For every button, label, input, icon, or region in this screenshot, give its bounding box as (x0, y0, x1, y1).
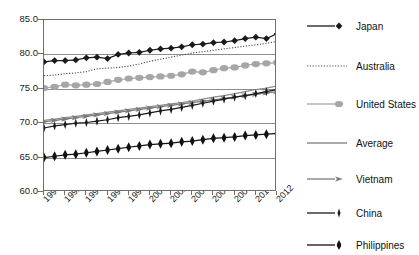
legend-item-china[interactable]: China (305, 206, 382, 220)
legend-key-icon (305, 238, 351, 252)
series-japan (44, 30, 276, 65)
data-point-marker (252, 61, 260, 67)
data-point-marker (199, 69, 207, 75)
legend-item-australia[interactable]: Australia (305, 59, 395, 73)
data-point-marker (127, 142, 131, 152)
data-point-marker (53, 121, 56, 130)
data-point-marker (83, 54, 90, 61)
y-axis-tick-label: 65.0 (0, 152, 38, 161)
data-point-marker (273, 60, 276, 66)
data-point-marker (336, 23, 343, 30)
data-point-marker (125, 50, 132, 57)
data-point-marker (252, 34, 259, 41)
data-point-marker (158, 139, 162, 149)
data-point-marker (335, 176, 343, 181)
data-point-marker (50, 84, 58, 90)
data-point-marker (199, 41, 206, 48)
legend-key-icon (305, 19, 351, 33)
data-point-marker (135, 75, 143, 81)
series-line (44, 86, 276, 120)
series-united-states (44, 60, 276, 92)
data-point-marker (254, 130, 258, 140)
data-point-marker (52, 151, 56, 161)
data-point-marker (147, 47, 154, 54)
data-point-marker (169, 138, 173, 148)
legend-item-vietnam[interactable]: Vietnam (305, 172, 393, 186)
data-point-marker (180, 137, 184, 147)
data-point-marker (82, 82, 90, 88)
data-point-marker (221, 39, 228, 46)
chart-legend: JapanAustraliaUnited StatesAverageVietna… (305, 10, 419, 250)
legend-key-icon (305, 97, 351, 111)
data-point-marker (106, 115, 109, 124)
data-point-marker (115, 51, 122, 58)
data-point-marker (230, 64, 238, 70)
data-point-marker (44, 153, 46, 163)
legend-item-label: Japan (351, 21, 383, 32)
data-point-marker (72, 57, 79, 64)
data-point-marker (61, 82, 69, 88)
data-point-marker (125, 75, 133, 81)
legend-item-philippines[interactable]: Philippines (305, 238, 404, 252)
data-point-marker (190, 136, 194, 146)
data-point-marker (210, 39, 217, 46)
legend-item-label: China (351, 208, 382, 219)
data-point-marker (93, 81, 101, 87)
y-axis-tick-label: 80.0 (0, 48, 38, 57)
legend-item-average[interactable]: Average (305, 136, 393, 150)
data-point-marker (44, 123, 46, 132)
data-point-marker (263, 35, 270, 42)
data-point-marker (72, 82, 80, 88)
data-point-marker (84, 148, 88, 158)
legend-item-united-states[interactable]: United States (305, 97, 416, 111)
series-philippines (44, 129, 276, 163)
data-point-marker (44, 59, 47, 66)
data-point-marker (254, 89, 257, 98)
data-point-marker (168, 45, 175, 52)
data-point-marker (167, 73, 175, 79)
legend-item-label: Philippines (351, 240, 404, 251)
data-point-marker (51, 57, 58, 64)
data-point-marker (104, 55, 111, 62)
y-axis-tick-label: 70.0 (0, 117, 38, 126)
data-point-marker (85, 118, 88, 127)
data-point-marker (74, 149, 78, 159)
data-point-marker (63, 150, 67, 160)
data-point-marker (337, 240, 341, 250)
data-point-marker (189, 41, 196, 48)
data-point-marker (116, 144, 120, 154)
data-point-marker (137, 141, 141, 151)
data-point-marker (74, 119, 77, 128)
data-point-marker (44, 85, 48, 91)
legend-key-icon (305, 136, 351, 150)
data-point-marker (276, 85, 277, 94)
data-point-marker (338, 208, 341, 217)
data-point-marker (220, 65, 228, 71)
x-axis-tick-label: 2012 (274, 183, 295, 204)
legend-item-label: Australia (351, 61, 395, 72)
data-point-marker (138, 110, 141, 119)
data-point-marker (188, 69, 196, 75)
data-point-marker (241, 62, 249, 68)
plot-area (43, 19, 276, 191)
legend-item-label: United States (351, 99, 416, 110)
legend-key-icon (305, 172, 351, 186)
data-point-marker (264, 129, 268, 139)
data-point-marker (146, 74, 154, 80)
data-point-marker (178, 43, 185, 50)
data-point-marker (64, 120, 67, 129)
legend-key-icon (305, 206, 351, 220)
life-expectancy-chart: 85.080.075.070.065.060.0 199019921994199… (0, 0, 419, 255)
legend-item-label: Average (351, 138, 393, 149)
data-point-marker (243, 131, 247, 141)
data-point-marker (148, 140, 152, 150)
legend-item-japan[interactable]: Japan (305, 19, 383, 33)
series-vietnam (44, 89, 276, 124)
y-axis-tick-label: 85.0 (0, 14, 38, 23)
data-point-marker (233, 132, 237, 142)
data-point-marker (201, 135, 205, 145)
y-axis-tick-label: 60.0 (0, 186, 38, 195)
data-point-marker (136, 49, 143, 56)
legend-item-label: Vietnam (351, 174, 393, 185)
data-point-marker (157, 45, 164, 52)
